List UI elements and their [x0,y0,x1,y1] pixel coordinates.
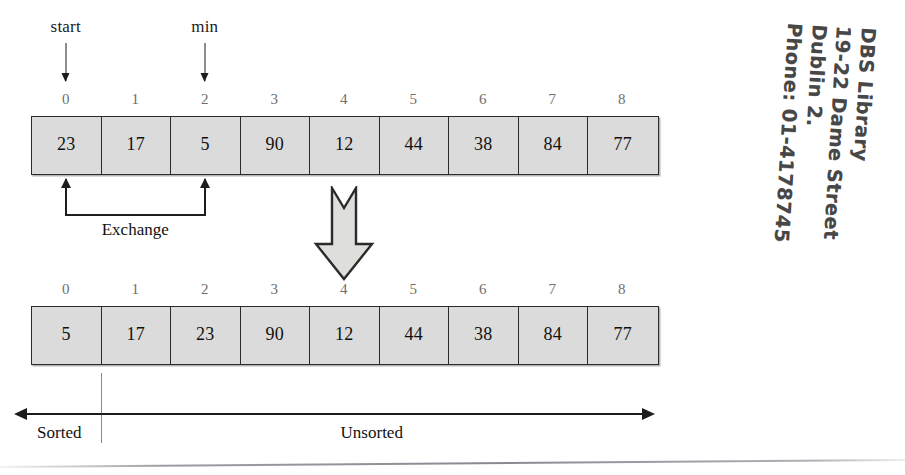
partition-axis-left-arrow-icon [14,408,27,420]
array-cell: 77 [588,117,658,174]
partition-axis-right-arrow-icon [642,408,655,420]
array-cell-value: 38 [474,324,493,345]
array-index-label: 8 [618,91,626,108]
array-index-label: 7 [549,281,557,298]
array-index-label: 4 [340,91,348,108]
partition-boundary-tick [101,373,102,443]
library-ownership-stamp: DBS Library19-22 Dame StreetDublin 2.Pho… [768,22,880,248]
array-after-exchange: 51723901244388477 [31,306,659,365]
array-cell: 44 [380,307,450,364]
array-index-label: 7 [549,91,557,108]
array-cell: 77 [588,307,658,364]
array-cell: 84 [519,307,589,364]
exchange-label: Exchange [102,220,169,240]
array-cell-value: 12 [335,324,354,345]
array-cell: 23 [32,117,102,174]
partition-axis-line [25,413,644,415]
array-cell-value: 90 [265,324,284,345]
array-cell: 12 [310,307,380,364]
array-cell-value: 44 [404,324,423,345]
array-index-label: 3 [271,281,279,298]
array-cell-value: 12 [335,134,354,155]
down-block-arrow-icon [312,186,376,286]
exchange-arrow-right-icon [204,179,206,216]
array-cell-value: 44 [404,134,423,155]
sorted-region-label: Sorted [37,423,81,443]
array-cell: 44 [380,117,450,174]
array-cell: 38 [449,307,519,364]
array-index-label: 0 [62,91,70,108]
index-row-top: 012345678 [0,91,901,111]
array-cell-value: 17 [126,134,145,155]
array-cell: 90 [241,307,311,364]
array-cell: 5 [171,117,241,174]
array-index-label: 4 [340,281,348,298]
array-cell: 5 [32,307,102,364]
array-index-label: 5 [410,281,418,298]
array-cell-value: 23 [57,134,76,155]
array-index-label: 8 [618,281,626,298]
array-index-label: 2 [201,281,209,298]
array-index-label: 1 [132,281,140,298]
array-cell-value: 84 [543,134,562,155]
array-cell-value: 5 [201,134,210,155]
array-cell: 12 [310,117,380,174]
array-index-label: 2 [201,91,209,108]
array-cell-value: 23 [196,324,215,345]
array-cell-value: 38 [474,134,493,155]
unsorted-region-label: Unsorted [341,423,403,443]
array-cell-value: 84 [543,324,562,345]
array-cell: 84 [519,117,589,174]
array-index-label: 3 [271,91,279,108]
array-cell: 90 [241,117,311,174]
exchange-arrow-left-icon [65,179,67,216]
start-pointer-arrow-icon [65,43,66,81]
array-cell: 17 [102,307,172,364]
exchange-bracket-bar [66,214,205,216]
exchange-bracket [66,179,205,216]
array-cell-value: 90 [265,134,284,155]
array-index-label: 6 [479,281,487,298]
index-row-bottom: 012345678 [0,281,901,301]
min-pointer-arrow-icon [204,43,205,81]
array-cell: 23 [171,307,241,364]
array-cell-value: 77 [613,324,632,345]
array-index-label: 6 [479,91,487,108]
start-pointer-label: start [51,17,81,37]
array-index-label: 1 [132,91,140,108]
array-index-label: 0 [62,281,70,298]
array-cell-value: 5 [62,324,71,345]
page-rule-divider [0,459,905,468]
min-pointer-label: min [191,17,218,37]
array-cell-value: 77 [613,134,632,155]
array-cell-value: 17 [126,324,145,345]
array-index-label: 5 [410,91,418,108]
array-cell: 38 [449,117,519,174]
array-before-exchange: 23175901244388477 [31,116,659,175]
array-cell: 17 [102,117,172,174]
